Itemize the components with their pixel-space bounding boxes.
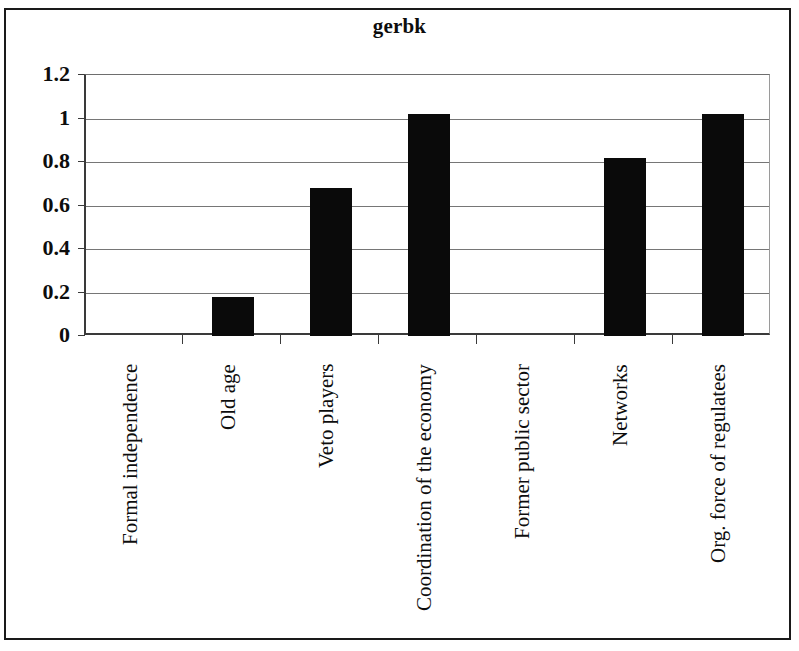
bar <box>604 158 646 336</box>
y-axis-tick-label: 0 <box>6 322 70 348</box>
y-axis-tick-label: 1 <box>6 105 70 131</box>
x-axis-tick-mark <box>672 335 673 344</box>
figure-frame: gerbk 00.20.40.60.811.2 Formal independe… <box>4 8 791 640</box>
y-axis-tick-label: 0.2 <box>6 279 70 305</box>
bar <box>408 114 450 336</box>
category-label: Coordination of the economy <box>414 364 435 611</box>
y-axis-tick-label: 0.4 <box>6 235 70 261</box>
x-axis-tick-mark <box>280 335 281 344</box>
bar <box>310 188 352 336</box>
y-axis-tick-label: 1.2 <box>6 61 70 87</box>
category-label: Networks <box>610 364 631 446</box>
category-label: Veto players <box>316 364 337 468</box>
category-label: Former public sector <box>512 364 533 539</box>
plot-area <box>84 74 770 335</box>
x-axis-tick-mark <box>182 335 183 344</box>
bar <box>212 297 254 336</box>
y-axis-tick-label: 0.8 <box>6 148 70 174</box>
x-axis-tick-mark <box>476 335 477 344</box>
x-axis-tick-mark <box>574 335 575 344</box>
category-label: Old age <box>218 364 239 430</box>
bar <box>702 114 744 336</box>
y-axis-tick-label: 0.6 <box>6 192 70 218</box>
category-label: Formal independence <box>120 364 141 545</box>
x-axis-tick-mark <box>378 335 379 344</box>
y-axis-tick-mark <box>78 335 85 336</box>
chart-title: gerbk <box>6 14 793 39</box>
category-label: Org. force of regulatees <box>708 364 729 563</box>
